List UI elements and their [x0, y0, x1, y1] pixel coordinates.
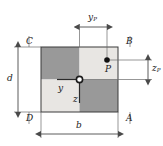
point-p-label: P [105, 65, 111, 74]
dimension-label-d: d [7, 74, 13, 83]
corner-label-c: C [26, 37, 33, 46]
dimension-label-zp-sub: P [157, 67, 161, 73]
z-axis-label: z [73, 95, 78, 104]
point-p-marker [104, 57, 110, 63]
corner-label-b: B [126, 37, 133, 46]
dimension-label-yp-sub: P [93, 16, 97, 22]
corner-label-a: A [126, 114, 133, 123]
dimension-label-b: b [76, 121, 82, 130]
cross-section-figure: C B A D d b yP zP y z P [0, 0, 163, 146]
y-axis-label: y [58, 84, 63, 93]
quadrant-bottom-right [80, 80, 119, 113]
dimension-label-yp: yP [88, 13, 97, 23]
quadrant-top-left [41, 47, 80, 80]
quadrant-top-right [80, 47, 119, 80]
centroid-marker [76, 76, 82, 82]
corner-label-d: D [26, 114, 33, 123]
dimension-label-zp: zP [152, 64, 161, 74]
